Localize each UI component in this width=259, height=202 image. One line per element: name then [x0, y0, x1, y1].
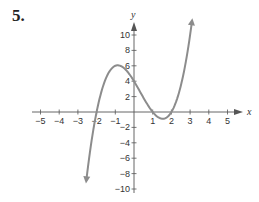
x-axis-label: x: [246, 106, 252, 117]
x-tick-label: 3: [188, 116, 193, 126]
cubic-function-graph: xy−5−4−3−2−112345108642−2−4−6−8−10: [0, 0, 259, 202]
y-tick-label: 10: [120, 30, 130, 40]
curve-arrow-down-icon: [83, 176, 90, 183]
x-tick-label: 1: [150, 116, 155, 126]
curve-arrow-up-icon: [188, 18, 195, 25]
x-tick-label: 5: [225, 116, 230, 126]
x-tick-label: 2: [169, 116, 174, 126]
x-tick-label: −4: [54, 116, 64, 126]
y-tick-label: −8: [120, 169, 130, 179]
y-tick-label: 4: [125, 76, 130, 86]
y-tick-label: −2: [120, 122, 130, 132]
function-curve: [86, 21, 192, 180]
y-tick-label: −6: [120, 153, 130, 163]
y-tick-label: 2: [125, 92, 130, 102]
x-tick-label: −2: [91, 116, 101, 126]
y-axis-label: y: [130, 9, 136, 20]
x-tick-label: −3: [73, 116, 83, 126]
y-tick-label: −4: [120, 138, 130, 148]
y-tick-label: 8: [125, 45, 130, 55]
y-tick-label: −10: [115, 184, 130, 194]
x-tick-label: −5: [35, 116, 45, 126]
x-tick-label: 4: [206, 116, 211, 126]
x-axis-arrow-icon: [234, 109, 243, 115]
y-axis-arrow-icon: [131, 22, 137, 31]
